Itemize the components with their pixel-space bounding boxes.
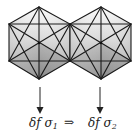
left-label: δf σ1 [29,116,58,131]
left-label-subscript: 1 [53,122,58,131]
left-icosahedron [9,7,70,79]
right-icosahedron [70,7,131,79]
right-down-arrow-icon [97,87,104,114]
implies-symbol: ⇒ [64,115,74,129]
left-down-arrow-icon [37,87,44,114]
right-label: δf σ2 [88,116,117,131]
icosahedra-diagram: δf σ1 ⇒ δf σ2 [0,0,136,132]
left-label-prefix: δf σ [29,116,53,130]
right-label-prefix: δf σ [88,116,112,130]
right-label-subscript: 2 [111,122,117,131]
